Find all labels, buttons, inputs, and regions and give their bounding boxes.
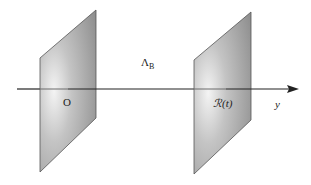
origin-label: O: [63, 96, 71, 108]
origin-plane: [40, 10, 96, 172]
boundary-label: ℛ(t): [213, 97, 233, 110]
region-label-main: Λ: [141, 56, 149, 68]
diagram-canvas: O ℛ(t) y ΛB: [0, 0, 311, 185]
region-label-subscript: B: [149, 62, 154, 71]
region-label: ΛB: [141, 56, 154, 71]
axis-label-y: y: [274, 98, 280, 110]
boundary-plane: [194, 12, 251, 174]
